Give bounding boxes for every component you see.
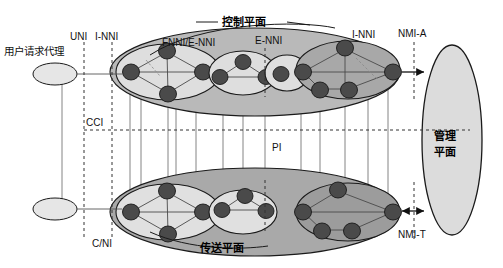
user-agent-control-ellipse xyxy=(33,63,77,85)
nmi-arrows xyxy=(402,72,424,211)
control-plane-label: 控制平面 xyxy=(222,15,266,29)
pi-label: PI xyxy=(272,142,281,153)
cci-label: CCI xyxy=(86,117,103,128)
control-cluster-mid-right-nodes xyxy=(273,67,289,82)
uni-label: UNI xyxy=(70,31,87,42)
diagram-canvas: 用户请求代理 UNI I-NNI FNNI/E-NNI E-NNI I-NNI … xyxy=(0,0,503,268)
network-architecture-diagram: 用户请求代理 UNI I-NNI FNNI/E-NNI E-NNI I-NNI … xyxy=(0,0,503,268)
user-agent-transport-ellipse xyxy=(33,198,77,220)
i-nni-left-label: I-NNI xyxy=(95,31,118,42)
c-ni-label: C/NI xyxy=(92,238,112,249)
e-nni-label: E-NNI xyxy=(255,35,282,46)
nmi-a-label: NMI-A xyxy=(398,28,427,39)
management-plane-label-line2: 平面 xyxy=(434,146,456,159)
user-request-agent-group xyxy=(33,63,122,220)
fnni-e-nni-label: FNNI/E-NNI xyxy=(162,37,215,48)
transport-plane-label: 传送平面 xyxy=(199,241,244,255)
i-nni-right-label: I-NNI xyxy=(352,29,375,40)
user-request-agent-label: 用户请求代理 xyxy=(4,45,65,57)
management-plane-label-line1: 管理 xyxy=(434,129,456,143)
nmi-t-label: NMI-T xyxy=(398,229,426,240)
